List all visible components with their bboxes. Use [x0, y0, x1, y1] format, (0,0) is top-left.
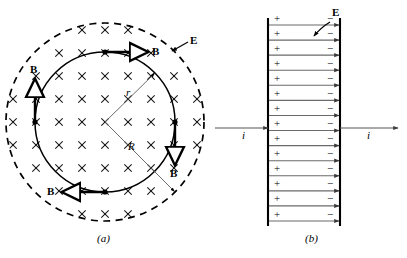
plate-charge-positive: + [274, 12, 280, 24]
plate-charge-positive: + [274, 87, 280, 99]
current-label-right: i [367, 129, 370, 141]
field-cross [125, 27, 132, 34]
field-cross [148, 96, 155, 103]
plate-charge-negative: − [327, 87, 333, 99]
plate-charge-positive: + [274, 102, 280, 114]
caption-panel-b: (b) [305, 232, 318, 244]
field-cross [79, 119, 86, 126]
field-cross [148, 142, 155, 149]
field-cross [148, 119, 155, 126]
field-cross [194, 119, 201, 126]
field-cross [10, 119, 17, 126]
plate-charge-positive: + [274, 192, 280, 204]
plate-charge-negative: − [327, 27, 333, 39]
field-cross [79, 211, 86, 218]
field-cross [125, 73, 132, 80]
b-label-bottom: B [47, 185, 54, 197]
plate-charge-negative: − [327, 208, 333, 220]
field-cross [10, 142, 17, 149]
plate-charge-negative: − [327, 57, 333, 69]
field-cross [194, 142, 201, 149]
field-cross [56, 73, 63, 80]
radius-label-r: r [126, 86, 130, 98]
field-cross [171, 73, 178, 80]
plate-charge-negative: − [327, 177, 333, 189]
field-cross [102, 96, 109, 103]
plate-charge-negative: − [327, 162, 333, 174]
plate-charge-negative: − [327, 102, 333, 114]
field-cross [56, 119, 63, 126]
field-cross [125, 165, 132, 172]
caption-panel-a: (a) [97, 232, 110, 244]
plate-charge-negative: − [327, 147, 333, 159]
field-cross [148, 73, 155, 80]
e-label-b: E [332, 6, 339, 18]
b-label-right: B [170, 167, 177, 179]
b-label-top: B [152, 45, 159, 57]
field-cross [125, 119, 132, 126]
field-cross [194, 96, 201, 103]
e-label-a: E [190, 34, 197, 46]
field-cross [56, 188, 63, 195]
plate-charge-negative: − [327, 117, 333, 129]
figure-svg: +−+−+−+−+−+−+−+−+−+−+−+−+−+− [0, 0, 407, 258]
plate-charge-negative: − [327, 72, 333, 84]
field-cross [102, 27, 109, 34]
physics-figure: +−+−+−+−+−+−+−+−+−+−+−+−+−+− B B B B E r… [0, 0, 407, 258]
capacitor-field-lines: +−+−+−+−+−+−+−+−+−+−+−+−+−+− [269, 12, 339, 222]
radius-line-R [105, 122, 175, 192]
field-cross [102, 142, 109, 149]
plate-charge-positive: + [274, 177, 280, 189]
plate-charge-negative: − [327, 42, 333, 54]
field-cross [102, 73, 109, 80]
b-label-left: B [30, 63, 37, 75]
plate-charge-positive: + [274, 162, 280, 174]
field-cross [102, 211, 109, 218]
plate-charge-positive: + [274, 117, 280, 129]
radius-label-R: R [128, 140, 135, 152]
panel-a [6, 23, 204, 221]
field-cross [79, 165, 86, 172]
field-cross [79, 142, 86, 149]
plate-charge-positive: + [274, 57, 280, 69]
current-label-left: i [242, 129, 245, 141]
field-cross [79, 27, 86, 34]
field-cross [102, 165, 109, 172]
plate-charge-positive: + [274, 42, 280, 54]
field-cross [79, 96, 86, 103]
plate-charge-positive: + [274, 72, 280, 84]
field-cross [125, 211, 132, 218]
field-cross [33, 165, 40, 172]
plate-charge-positive: + [274, 132, 280, 144]
panel-b: +−+−+−+−+−+−+−+−+−+−+−+−+−+− [215, 12, 398, 227]
plate-charge-positive: + [274, 147, 280, 159]
field-cross [56, 142, 63, 149]
field-cross [56, 50, 63, 57]
plate-charge-negative: − [327, 192, 333, 204]
field-cross [10, 96, 17, 103]
e-label-leader-a [172, 42, 188, 51]
plate-charge-positive: + [274, 208, 280, 220]
plate-charge-positive: + [274, 27, 280, 39]
field-cross [148, 188, 155, 195]
field-cross [79, 73, 86, 80]
plate-charge-negative: − [327, 132, 333, 144]
field-cross [56, 165, 63, 172]
field-cross [56, 96, 63, 103]
